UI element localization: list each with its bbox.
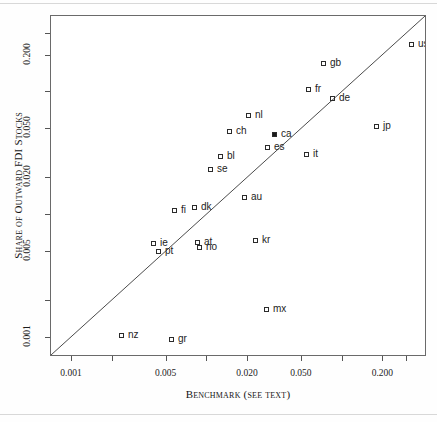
data-point-label-kr: kr [262,235,270,245]
y-tick-label: 0.020 [22,159,32,193]
x-tick-mark-minor [342,356,343,361]
x-tick-label: 0.020 [227,368,267,378]
data-point-label-de: de [339,93,350,103]
data-point-bl [218,154,223,159]
x-axis-title: Benchmark (see text) [50,388,426,400]
x-tick-mark [247,356,248,361]
data-point-dk [192,205,197,210]
x-tick-mark [301,356,302,361]
data-point-au [242,195,247,200]
x-tick-mark-minor [112,356,113,361]
data-point-nz [119,333,124,338]
data-point-label-no: no [206,242,217,252]
data-point-pt [156,249,161,254]
data-point-gr [169,337,174,342]
x-tick-mark-minor [206,356,207,361]
data-point-no [197,245,202,250]
data-point-ch [227,129,232,134]
data-point-label-bl: bl [227,151,235,161]
y-tick-label: 0.050 [22,110,32,144]
data-point-gb [321,61,326,66]
x-tick-label: 0.050 [281,368,321,378]
x-tick-mark [71,356,72,361]
data-point-label-mx: mx [273,304,286,314]
data-point-label-nl: nl [255,110,263,120]
data-point-de [330,96,335,101]
data-point-label-ca: ca [281,129,292,139]
data-point-es [265,145,270,150]
data-point-ie [151,241,156,246]
data-point-jp [374,124,379,129]
page-edge-bottom [0,414,437,415]
x-tick-label: 0.001 [51,368,91,378]
scatter-plot-figure: Share of Outward FDI Stocks Benchmark (s… [0,0,437,422]
x-tick-label: 0.200 [362,368,402,378]
data-point-se [208,167,213,172]
data-point-label-dk: dk [201,202,212,212]
data-point-label-it: it [313,149,318,159]
page-edge-top [0,3,437,4]
data-point-fr [306,87,311,92]
data-point-label-gb: gb [330,58,341,68]
x-tick-mark-minor [406,356,407,361]
data-point-ca [272,132,277,137]
data-point-fi [172,208,177,213]
x-tick-label: 0.005 [146,368,186,378]
y-tick-label: 0.001 [22,319,32,353]
data-point-label-nz: nz [128,330,139,340]
data-point-label-jp: jp [383,121,391,131]
y-tick-label: 0.005 [22,233,32,267]
data-point-label-gr: gr [178,334,187,344]
data-point-label-pt: pt [165,246,173,256]
data-point-it [304,152,309,157]
plot-frame: usgbfrdejpnlchcaesitblseaufidkatnokriept… [50,15,426,356]
data-point-us [409,42,414,47]
y-tick-label: 0.200 [22,37,32,71]
data-point-nl [246,113,251,118]
data-point-label-es: es [274,142,285,152]
data-point-label-us: us [418,39,425,49]
data-point-label-au: au [251,192,262,202]
data-point-label-ch: ch [236,126,247,136]
data-point-label-fi: fi [181,205,186,215]
data-point-label-se: se [217,164,228,174]
data-point-label-fr: fr [315,84,321,94]
data-point-mx [264,307,269,312]
x-tick-mark [166,356,167,361]
x-tick-mark [382,356,383,361]
reference-line-45deg [51,16,425,355]
data-point-kr [253,238,258,243]
plot-area: usgbfrdejpnlchcaesitblseaufidkatnokriept… [51,16,425,355]
